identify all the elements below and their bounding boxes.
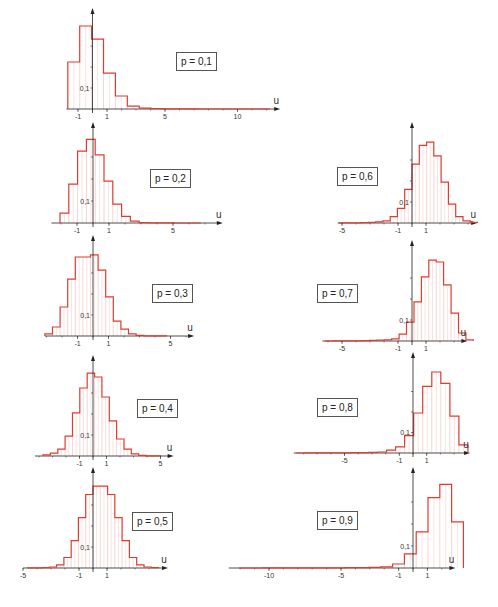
- x-tick-label: 1: [105, 460, 109, 467]
- y-tick-label: 0,1: [80, 312, 90, 319]
- x-tick-label: -1: [395, 227, 401, 234]
- x-tick-label: -1: [75, 113, 81, 120]
- x-tick-label: 10: [234, 113, 242, 120]
- y-tick-label: 0,1: [399, 199, 409, 206]
- p-value-label: p = 0,6: [337, 167, 378, 186]
- p-value-label: p = 0,9: [317, 511, 358, 530]
- x-axis-label: u: [167, 442, 173, 453]
- x-tick-label: 1: [107, 340, 111, 347]
- y-tick-label: 0,1: [400, 543, 410, 550]
- x-tick-label: -10: [264, 572, 274, 579]
- x-tick-label: -1: [74, 340, 80, 347]
- x-axis-label: u: [463, 439, 469, 450]
- y-axis-arrow-icon: [91, 355, 95, 361]
- y-axis-arrow-icon: [91, 467, 95, 473]
- histograms-canvas: 0,1-11510u0,1-115u0,1-115u0,1-115u0,1-5-…: [0, 0, 498, 607]
- x-tick-label: 1: [425, 457, 429, 464]
- histogram-p-01: 0,1-11510u: [66, 8, 280, 120]
- x-tick-label: 1: [105, 572, 109, 579]
- x-tick-label: -5: [339, 227, 345, 234]
- x-tick-label: 1: [424, 227, 428, 234]
- y-axis-arrow-icon: [91, 8, 95, 14]
- y-axis-arrow-icon: [91, 235, 95, 241]
- y-tick-label: 0,1: [80, 432, 90, 439]
- p-value-label: p = 0,8: [317, 398, 358, 417]
- y-tick-label: 0,1: [399, 317, 409, 324]
- x-tick-label: -1: [395, 572, 401, 579]
- y-tick-label: 0,1: [80, 85, 90, 92]
- y-axis-arrow-icon: [410, 122, 414, 128]
- x-axis-label: u: [161, 554, 167, 565]
- y-axis-arrow-icon: [411, 467, 415, 473]
- p-value-label: p = 0,3: [152, 284, 193, 303]
- y-tick-label: 0,1: [400, 429, 410, 436]
- y-axis-arrow-icon: [410, 240, 414, 246]
- x-axis-label: u: [461, 327, 467, 338]
- p-value-label: p = 0,1: [176, 52, 217, 71]
- x-tick-label: -5: [339, 345, 345, 352]
- x-tick-label: -5: [20, 572, 26, 579]
- p-value-label: p = 0,4: [137, 399, 178, 418]
- p-value-label: p = 0,5: [132, 512, 173, 531]
- x-tick-label: 5: [159, 460, 163, 467]
- y-tick-label: 0,1: [80, 198, 90, 205]
- x-axis-label: u: [187, 322, 193, 333]
- x-axis-arrow-icon: [449, 566, 455, 570]
- x-axis-arrow-icon: [168, 454, 174, 458]
- x-tick-label: 5: [169, 340, 173, 347]
- x-tick-label: -1: [76, 460, 82, 467]
- x-tick-label: 1: [107, 227, 111, 234]
- x-tick-label: 5: [171, 227, 175, 234]
- x-tick-label: 5: [163, 113, 167, 120]
- x-tick-label: 1: [424, 345, 428, 352]
- x-tick-label: -5: [341, 457, 347, 464]
- x-axis-label: u: [449, 554, 455, 565]
- x-axis-arrow-icon: [464, 451, 470, 455]
- histogram-outline: [68, 26, 270, 109]
- p-value-label: p = 0,2: [150, 169, 191, 188]
- x-tick-label: 1: [425, 572, 429, 579]
- x-axis-arrow-icon: [274, 107, 280, 111]
- histogram-p-02: 0,1-115u: [51, 122, 222, 234]
- x-tick-label: -1: [395, 345, 401, 352]
- x-tick-label: -1: [396, 457, 402, 464]
- x-axis-label: u: [470, 209, 476, 220]
- x-tick-label: -5: [338, 572, 344, 579]
- x-axis-label: u: [273, 95, 279, 106]
- x-tick-label: 1: [105, 113, 109, 120]
- p-value-label: p = 0,7: [317, 284, 358, 303]
- x-axis-arrow-icon: [217, 221, 223, 225]
- x-tick-label: -1: [76, 572, 82, 579]
- y-tick-label: 0,1: [80, 544, 90, 551]
- y-axis-arrow-icon: [411, 352, 415, 358]
- x-axis-arrow-icon: [188, 334, 194, 338]
- x-axis-label: u: [216, 209, 222, 220]
- y-axis-arrow-icon: [91, 122, 95, 128]
- x-tick-label: -1: [74, 227, 80, 234]
